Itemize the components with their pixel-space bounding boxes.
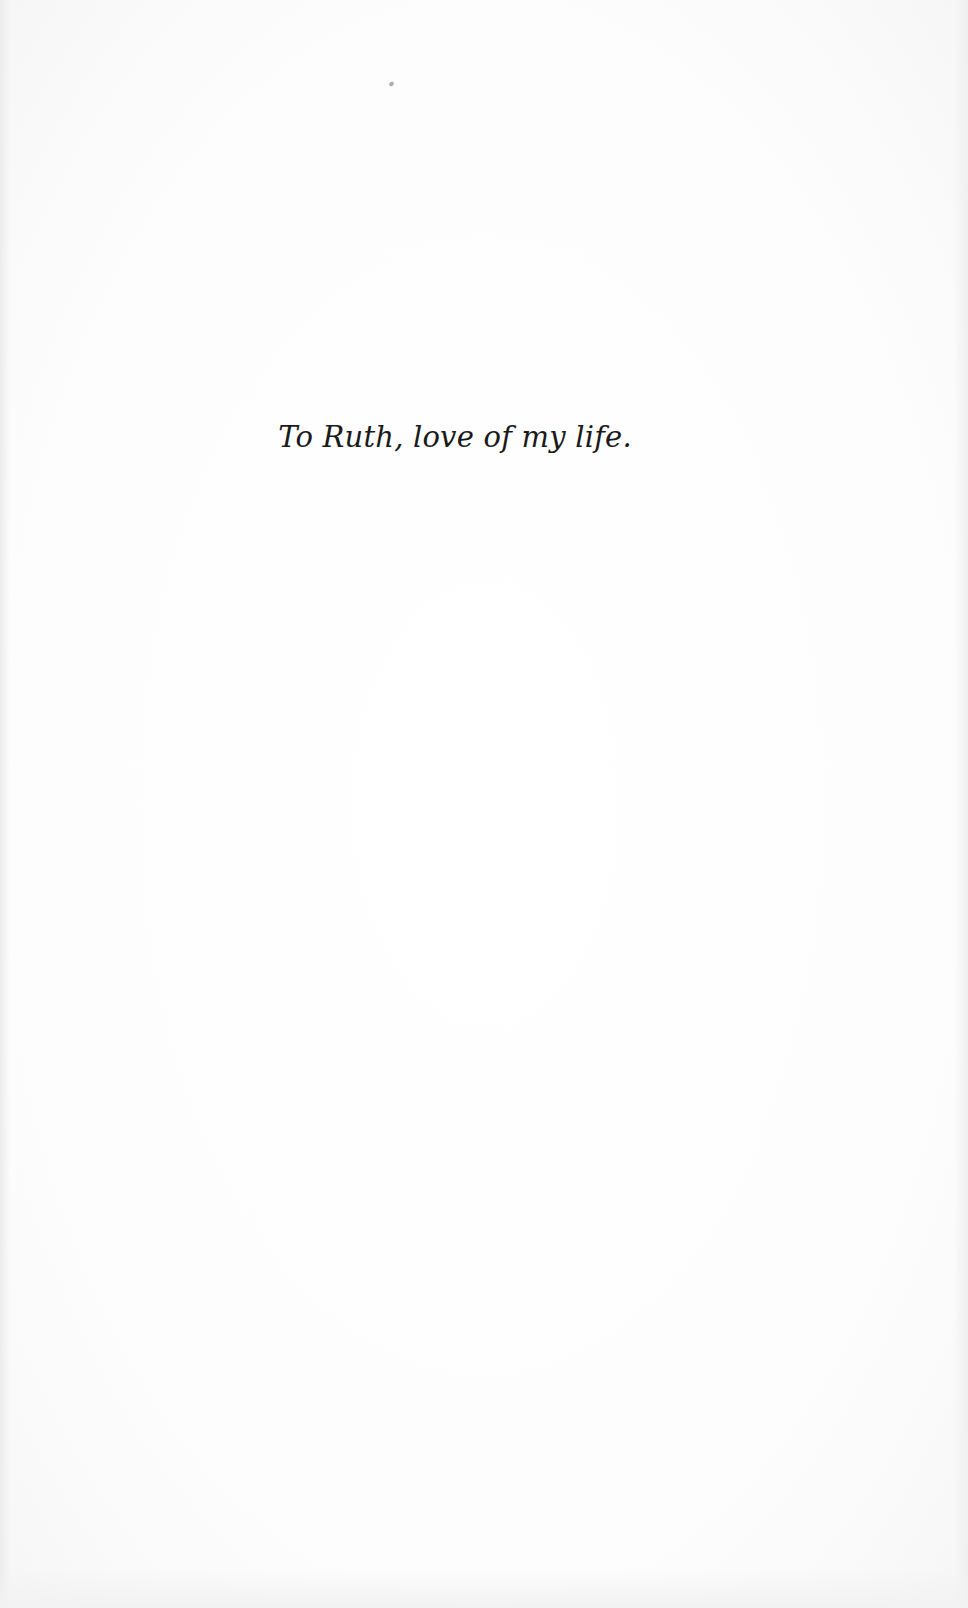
page-left-edge-shadow <box>0 0 10 1608</box>
dedication-text: To Ruth, love of my life. <box>0 420 910 454</box>
page-right-edge-shadow <box>954 0 968 1608</box>
book-page: To Ruth, love of my life. <box>0 0 968 1608</box>
page-bottom-edge-shadow <box>0 1568 968 1608</box>
scan-speck <box>388 81 394 87</box>
